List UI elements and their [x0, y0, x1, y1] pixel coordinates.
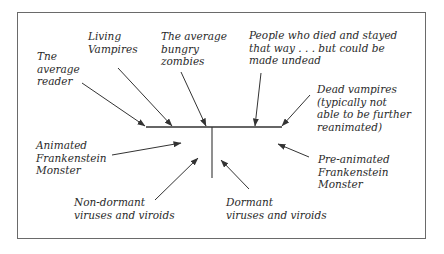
label-living-vampires: Living Vampires	[88, 30, 138, 55]
arrow-pre-animated	[278, 144, 309, 157]
label-people-died: People who died and stayed that way . . …	[249, 29, 397, 67]
label-pre-animated-frankenstein: Pre-animated Frankenstein Monster	[318, 153, 390, 191]
label-hungry-zombies: The average bungry zombies	[161, 30, 227, 68]
arrow-average-reader	[82, 83, 145, 126]
label-animated-frankenstein: Animated Frankenstein Monster	[36, 139, 107, 177]
arrow-animated-frankenstein	[112, 143, 181, 155]
label-non-dormant-viruses: Non-dormant viruses and viroids	[74, 196, 175, 221]
arrow-people-died	[255, 73, 261, 126]
arrow-living-vampires	[118, 68, 172, 126]
label-average-reader: Tne average reader	[37, 50, 80, 88]
arrow-non-dormant	[155, 158, 198, 200]
arrow-hungry-zombies	[181, 72, 206, 126]
label-dead-vampires: Dead vampires (typically not able to be …	[317, 83, 411, 133]
label-dormant-viruses: Dormant viruses and viroids	[226, 196, 327, 221]
arrow-dead-vampires	[282, 95, 310, 126]
arrow-dormant	[221, 160, 249, 189]
